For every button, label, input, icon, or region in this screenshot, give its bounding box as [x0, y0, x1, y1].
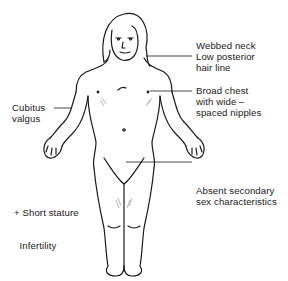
annotation-webbed-neck: Webbed neck Low posterior hair line	[196, 40, 256, 73]
face	[111, 26, 138, 60]
right-hand	[186, 138, 204, 158]
annotation-cubitus-valgus: Cubitus valgus	[12, 102, 45, 124]
right-leg	[124, 168, 154, 276]
torso	[88, 96, 96, 168]
annotation-short-stature-infertility: + Short stature Infertility	[14, 185, 79, 262]
right-arm	[172, 92, 198, 138]
annotation-line: sex characteristics	[196, 196, 277, 207]
annotation-line: spaced nipples	[196, 107, 261, 118]
annotation-broad-chest: Broad chest with wide – spaced nipples	[196, 85, 261, 118]
annotation-line: Infertility	[14, 240, 79, 251]
annotation-line: Webbed neck	[196, 40, 256, 51]
annotation-line: Broad chest	[196, 85, 261, 96]
annotation-line: with wide –	[196, 96, 261, 107]
annotation-line: + Short stature	[14, 207, 79, 218]
hair	[103, 13, 150, 66]
left-arm	[50, 92, 76, 138]
annotation-absent-secondary-sex-characteristics: Absent secondary sex characteristics	[196, 185, 277, 207]
left-leg	[94, 168, 124, 276]
annotation-line: Low posterior	[196, 51, 256, 62]
annotation-line: Absent secondary	[196, 185, 277, 196]
neck-shoulders	[76, 60, 108, 92]
annotation-line: Cubitus	[12, 102, 45, 113]
annotation-line: valgus	[12, 113, 45, 124]
left-hand	[44, 138, 62, 158]
annotation-line: hair line	[196, 62, 256, 73]
